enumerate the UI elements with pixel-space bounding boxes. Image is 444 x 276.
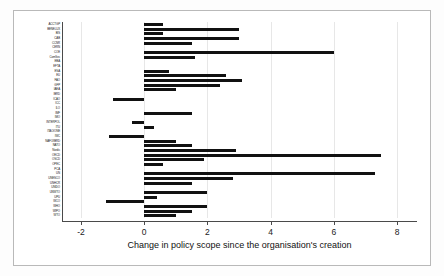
bar: [144, 149, 236, 152]
bar: [144, 84, 220, 87]
bar: [144, 205, 207, 208]
bar: [109, 135, 144, 138]
bar: [144, 79, 242, 82]
y-axis-tick-label: EU: [56, 74, 60, 77]
y-axis-tick-label: ITU: [56, 126, 60, 129]
figure-container: ACCTGPBENELUXBISCABCCNRCERNCOEComSecEBAE…: [0, 0, 444, 276]
x-axis-tick-label: 6: [331, 227, 336, 237]
bar: [144, 196, 157, 199]
bar: [144, 172, 375, 175]
bar: [144, 23, 163, 26]
bar: [144, 32, 163, 35]
y-axis-tick-label: NAFO/IBRD: [45, 140, 60, 143]
bar: [144, 191, 207, 194]
x-axis-tick-label: 2: [205, 227, 210, 237]
y-axis-tick-label: COE: [54, 51, 60, 54]
y-axis-tick-label: UNIDO: [51, 186, 60, 189]
gridline: [397, 22, 398, 218]
bar: [144, 74, 226, 77]
y-axis-tick-label: UNESCO: [48, 177, 60, 180]
x-axis-tick-label: 8: [395, 227, 400, 237]
x-axis-tick: [207, 221, 208, 225]
bar: [144, 154, 381, 157]
y-axis-tick-label: Nordic: [52, 149, 60, 152]
y-axis-tick-label: CERN: [52, 46, 60, 49]
y-axis-tick-label: BENELUX: [47, 28, 60, 31]
y-axis-tick-label: EFTA: [53, 65, 60, 68]
y-axis-tick-label: OECD: [52, 154, 60, 157]
y-axis-tick-label: WIPO: [53, 210, 60, 213]
bar: [144, 70, 169, 73]
bar: [144, 37, 239, 40]
y-axis-tick-label: ComSec: [50, 56, 60, 59]
x-axis-tick: [334, 221, 335, 225]
gridline: [334, 22, 335, 218]
y-axis-tick-label: UPU: [54, 196, 60, 199]
x-axis-tick: [397, 221, 398, 225]
gridline: [81, 22, 82, 218]
y-axis-tick-label: WCO: [53, 200, 60, 203]
bar: [144, 158, 204, 161]
y-axis-tick-label: ESA: [55, 70, 60, 73]
y-axis-tick-label: IBRD: [53, 93, 60, 96]
y-axis-tick-label: ICC: [55, 102, 60, 105]
bar: [132, 121, 145, 124]
y-axis-tick-label: BIS: [56, 32, 60, 35]
y-axis-tick-label: UNHCR: [50, 182, 60, 185]
bar: [144, 163, 163, 166]
y-axis-tick-label: IMO: [55, 116, 60, 119]
bar: [144, 88, 176, 91]
y-axis-labels: ACCTGPBENELUXBISCABCCNRCERNCOEComSecEBAE…: [0, 22, 60, 218]
y-axis-tick-label: ILO: [56, 107, 60, 110]
bar: [144, 112, 191, 115]
bar: [113, 98, 145, 101]
y-axis-tick-label: ACCTGP: [49, 23, 60, 26]
bar: [144, 126, 153, 129]
x-axis-title: Change in policy scope since the organis…: [62, 240, 417, 250]
bar: [144, 182, 191, 185]
x-axis-tick: [271, 221, 272, 225]
x-axis-tick-label: -2: [77, 227, 85, 237]
bar: [106, 200, 144, 203]
y-axis-tick-label: PCA: [54, 168, 60, 171]
y-axis-tick-label: UN: [56, 172, 60, 175]
x-axis-line: [62, 221, 417, 222]
y-axis-tick-label: NATO: [53, 144, 60, 147]
bar: [144, 144, 191, 147]
y-axis-tick-label: IMF: [55, 112, 60, 115]
y-axis-tick-label: IWC: [55, 135, 60, 138]
x-axis-tick: [144, 221, 145, 225]
bar: [144, 51, 334, 54]
y-axis-tick-label: WHO: [53, 205, 60, 208]
y-axis-tick-label: OSCD: [52, 158, 60, 161]
y-axis-tick-label: WTO: [54, 214, 60, 217]
bar: [144, 56, 195, 59]
plot-area: [62, 22, 416, 218]
y-axis-tick-label: OPEC: [52, 163, 60, 166]
bar: [144, 28, 239, 31]
y-axis-tick-label: FAO: [55, 79, 60, 82]
y-axis-tick-label: ITAO/ONE: [47, 130, 60, 133]
y-axis-tick-label: EBA: [55, 60, 60, 63]
bar: [144, 42, 191, 45]
x-axis-tick-label: 0: [142, 227, 147, 237]
bar: [144, 214, 176, 217]
x-axis-tick: [81, 221, 82, 225]
y-axis-tick-label: INTERPOL: [46, 121, 60, 124]
bar: [144, 177, 233, 180]
y-axis-tick-label: ICAO: [53, 98, 60, 101]
y-axis-tick-label: CCNR: [52, 42, 60, 45]
y-axis-tick-label: GFP: [54, 84, 60, 87]
bar: [144, 140, 176, 143]
y-axis-tick-label: IAEA: [54, 88, 60, 91]
y-axis-tick-label: CAB: [54, 37, 60, 40]
bar: [144, 210, 191, 213]
x-axis-tick-label: 4: [268, 227, 273, 237]
y-axis-tick-label: UNWTO: [50, 191, 60, 194]
